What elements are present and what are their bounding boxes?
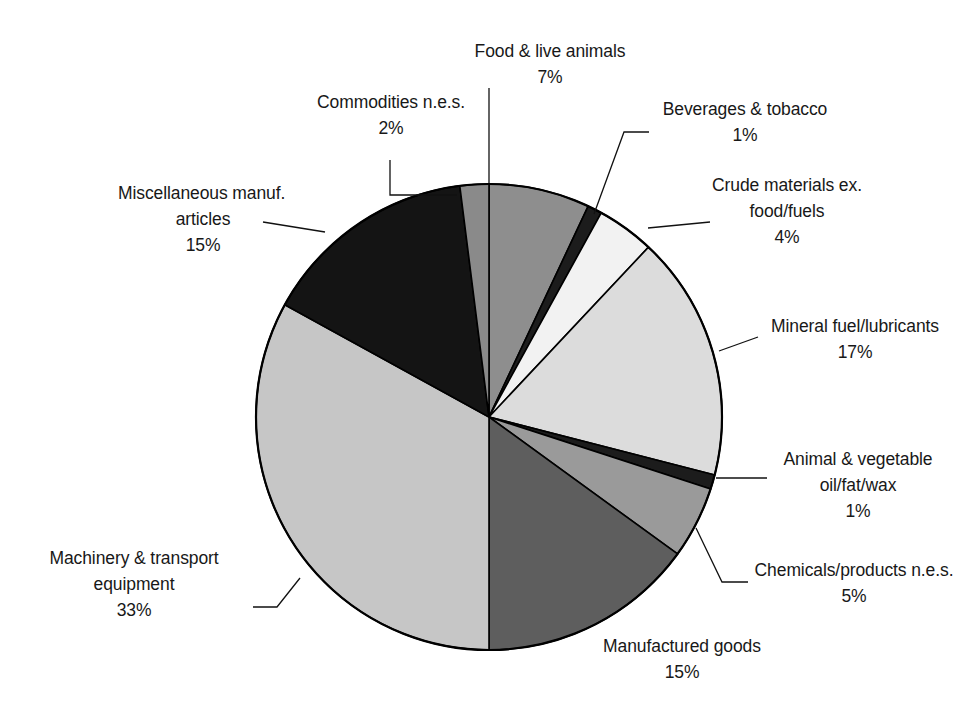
slice-label-chemicals: Chemicals/products n.e.s. 5%	[736, 557, 972, 609]
slice-label-chemicals-line1: Chemicals/products n.e.s.	[755, 560, 954, 580]
slice-label-manufactured-pct: 15%	[567, 659, 797, 685]
slice-label-crude: Crude materials ex. food/fuels 4%	[673, 172, 901, 250]
slice-label-misc-line2: articles	[118, 206, 288, 232]
slice-label-machinery-line2: equipment	[18, 571, 250, 597]
slice-label-beverages-line1: Beverages & tobacco	[663, 99, 827, 119]
slice-label-chemicals-pct: 5%	[736, 583, 972, 609]
slice-label-food-line1: Food & live animals	[475, 41, 626, 61]
pie-chart: Food & live animals 7% Beverages & tobac…	[0, 0, 973, 701]
leader-line-machinery	[253, 578, 300, 607]
slice-label-animal-pct: 1%	[758, 498, 958, 524]
slice-label-food: Food & live animals 7%	[440, 38, 660, 90]
slice-label-machinery: Machinery & transport equipment 33%	[18, 545, 250, 623]
slice-label-misc-pct: 15%	[118, 232, 288, 258]
slice-label-mineral-pct: 17%	[744, 339, 966, 365]
slice-label-misc-line1: Miscellaneous manuf.	[118, 183, 285, 203]
slice-label-crude-pct: 4%	[673, 224, 901, 250]
slice-label-crude-line2: food/fuels	[673, 198, 901, 224]
slice-label-commodities: Commodities n.e.s. 2%	[280, 89, 502, 141]
slice-label-mineral-line1: Mineral fuel/lubricants	[771, 316, 939, 336]
slice-label-machinery-pct: 33%	[18, 597, 250, 623]
slice-label-misc: Miscellaneous manuf. articles 15%	[118, 180, 358, 258]
slice-label-commodities-pct: 2%	[280, 115, 502, 141]
slice-label-crude-line1: Crude materials ex.	[712, 175, 862, 195]
slice-label-commodities-line1: Commodities n.e.s.	[317, 92, 465, 112]
slice-label-animal: Animal & vegetable oil/fat/wax 1%	[758, 446, 958, 524]
slice-label-food-pct: 7%	[440, 64, 660, 90]
slice-label-animal-line1: Animal & vegetable	[784, 449, 933, 469]
slice-label-manufactured-line1: Manufactured goods	[603, 636, 761, 656]
slice-label-animal-line2: oil/fat/wax	[758, 472, 958, 498]
slice-label-beverages: Beverages & tobacco 1%	[630, 96, 860, 148]
slice-label-manufactured: Manufactured goods 15%	[567, 633, 797, 685]
slice-label-machinery-line1: Machinery & transport	[49, 548, 218, 568]
slice-label-mineral: Mineral fuel/lubricants 17%	[744, 313, 966, 365]
slice-label-beverages-pct: 1%	[630, 122, 860, 148]
